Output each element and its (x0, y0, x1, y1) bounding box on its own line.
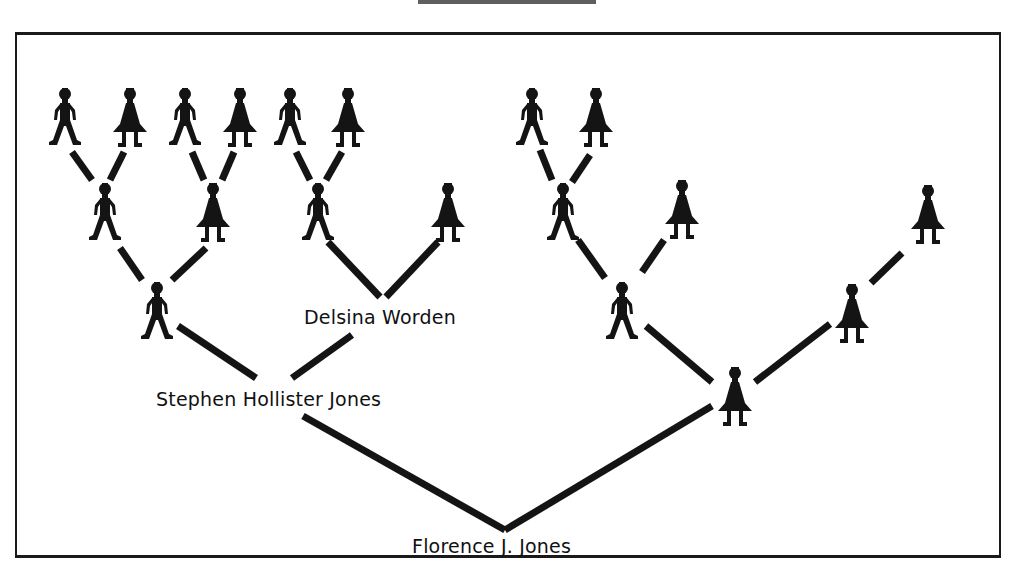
male-figure-icon (169, 88, 201, 145)
label-paternal-grandmother: Delsina Worden (304, 306, 456, 328)
female-figure-icon (835, 284, 869, 343)
male-figure-icon (141, 282, 173, 339)
male-figure-icon (274, 88, 306, 145)
label-father: Stephen Hollister Jones (156, 388, 381, 410)
links (72, 150, 902, 530)
male-figure-icon (547, 183, 579, 240)
pedigree-canvas (0, 0, 1021, 586)
male-figure-icon (89, 183, 121, 240)
female-figure-icon (223, 88, 257, 147)
label-root-person: Florence J. Jones (412, 535, 571, 557)
female-figure-icon (113, 88, 147, 147)
female-figure-icon (911, 185, 945, 244)
female-figure-icon (196, 183, 230, 242)
male-figure-icon (516, 88, 548, 145)
female-figure-icon (665, 180, 699, 239)
female-figure-icon (718, 367, 752, 426)
female-figure-icon (431, 183, 465, 242)
female-figure-icon (579, 88, 613, 147)
male-figure-icon (49, 88, 81, 145)
male-figure-icon (302, 183, 334, 240)
female-figure-icon (331, 88, 365, 147)
figures (49, 88, 945, 426)
male-figure-icon (606, 282, 638, 339)
